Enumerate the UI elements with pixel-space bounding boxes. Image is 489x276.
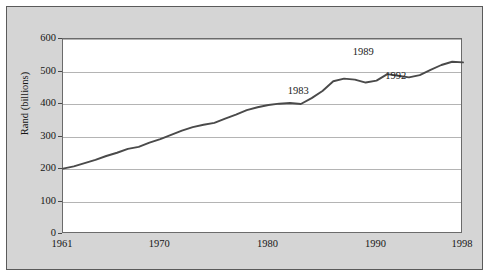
plot-area: 198319891992 — [62, 38, 462, 233]
data-annotation: 1992 — [385, 71, 406, 82]
data-annotation: 1983 — [288, 86, 309, 97]
y-axis-title: Rand (billions) — [19, 44, 30, 164]
data-series-line — [63, 39, 463, 234]
data-annotation: 1989 — [353, 47, 374, 58]
chart-figure: 0100200300400500600 19611970198019901998… — [0, 0, 489, 276]
